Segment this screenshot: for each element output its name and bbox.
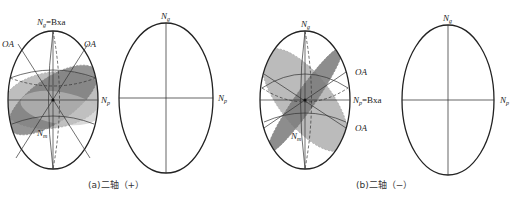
label-np-blank-b: Np bbox=[500, 96, 509, 106]
label-nm-a: Nm bbox=[37, 129, 47, 139]
figure-a-blank-net bbox=[119, 23, 213, 173]
label-ng-bxa-a: Ng=Bxa bbox=[37, 18, 66, 28]
label-oa-left-a: OA bbox=[2, 40, 14, 49]
label-np-blank-a: Np bbox=[218, 94, 227, 104]
label-nm-b: Nm bbox=[291, 132, 301, 142]
caption-b: (b)二轴（−） bbox=[356, 178, 412, 191]
label-ng-b: Ng bbox=[301, 20, 310, 30]
label-oa-lower-b: OA bbox=[355, 124, 367, 133]
label-np-a: Np bbox=[101, 96, 110, 106]
label-ng-blank-b: Ng bbox=[443, 14, 452, 24]
figure-b-blank-net bbox=[402, 25, 494, 175]
diagram-canvas bbox=[0, 0, 514, 197]
caption-a: (a)二轴（+） bbox=[88, 178, 144, 191]
label-np-bxa-b: Np=Bxa bbox=[353, 96, 382, 106]
label-oa-right-a: OA bbox=[84, 40, 96, 49]
label-ng-blank-a: Ng bbox=[161, 12, 170, 22]
label-oa-upper-b: OA bbox=[355, 68, 367, 77]
